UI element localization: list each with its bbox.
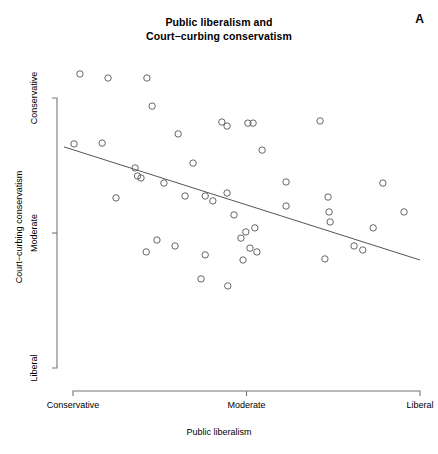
data-point bbox=[243, 229, 249, 235]
data-point bbox=[370, 225, 376, 231]
data-point bbox=[77, 71, 83, 77]
data-point bbox=[202, 252, 208, 258]
data-point bbox=[225, 283, 231, 289]
data-point bbox=[360, 247, 366, 253]
data-point bbox=[149, 103, 155, 109]
data-point bbox=[224, 190, 230, 196]
data-point bbox=[202, 193, 208, 199]
regression-line-group bbox=[64, 147, 420, 260]
data-point bbox=[210, 198, 216, 204]
data-point bbox=[380, 180, 386, 186]
data-point bbox=[182, 193, 188, 199]
y-axis-title: Court−curbing conservatism bbox=[14, 0, 32, 454]
data-point bbox=[283, 179, 289, 185]
data-point bbox=[254, 249, 260, 255]
data-point bbox=[143, 249, 149, 255]
data-point bbox=[198, 276, 204, 282]
data-point bbox=[113, 195, 119, 201]
y-axis-title-wrap: Court−curbing conservatism bbox=[14, 0, 32, 454]
data-point bbox=[247, 245, 253, 251]
scatter-plot-figure: Public liberalism and Court−curbing cons… bbox=[0, 0, 438, 454]
x-tick-label: Liberal bbox=[406, 400, 433, 410]
data-point bbox=[144, 75, 150, 81]
data-point bbox=[322, 256, 328, 262]
regression-line bbox=[64, 147, 420, 260]
x-tick-label: Conservative bbox=[47, 400, 100, 410]
data-point bbox=[224, 123, 230, 129]
data-point bbox=[71, 141, 77, 147]
plot-canvas bbox=[0, 0, 438, 454]
data-point bbox=[231, 212, 237, 218]
data-point bbox=[172, 243, 178, 249]
data-point bbox=[351, 243, 357, 249]
data-point bbox=[317, 118, 323, 124]
data-point bbox=[401, 209, 407, 215]
data-point bbox=[105, 75, 111, 81]
x-axis-title: Public liberalism bbox=[0, 427, 438, 437]
data-point bbox=[161, 180, 167, 186]
data-point bbox=[99, 140, 105, 146]
x-tick-label: Moderate bbox=[227, 400, 265, 410]
data-point bbox=[259, 147, 265, 153]
data-points-group bbox=[71, 71, 407, 289]
data-point bbox=[240, 257, 246, 263]
data-point bbox=[283, 203, 289, 209]
data-point bbox=[252, 225, 258, 231]
data-point bbox=[238, 235, 244, 241]
data-point bbox=[326, 209, 332, 215]
data-point bbox=[132, 165, 138, 171]
data-point bbox=[175, 131, 181, 137]
data-point bbox=[154, 237, 160, 243]
data-point bbox=[325, 194, 331, 200]
data-point bbox=[327, 219, 333, 225]
data-point bbox=[190, 160, 196, 166]
